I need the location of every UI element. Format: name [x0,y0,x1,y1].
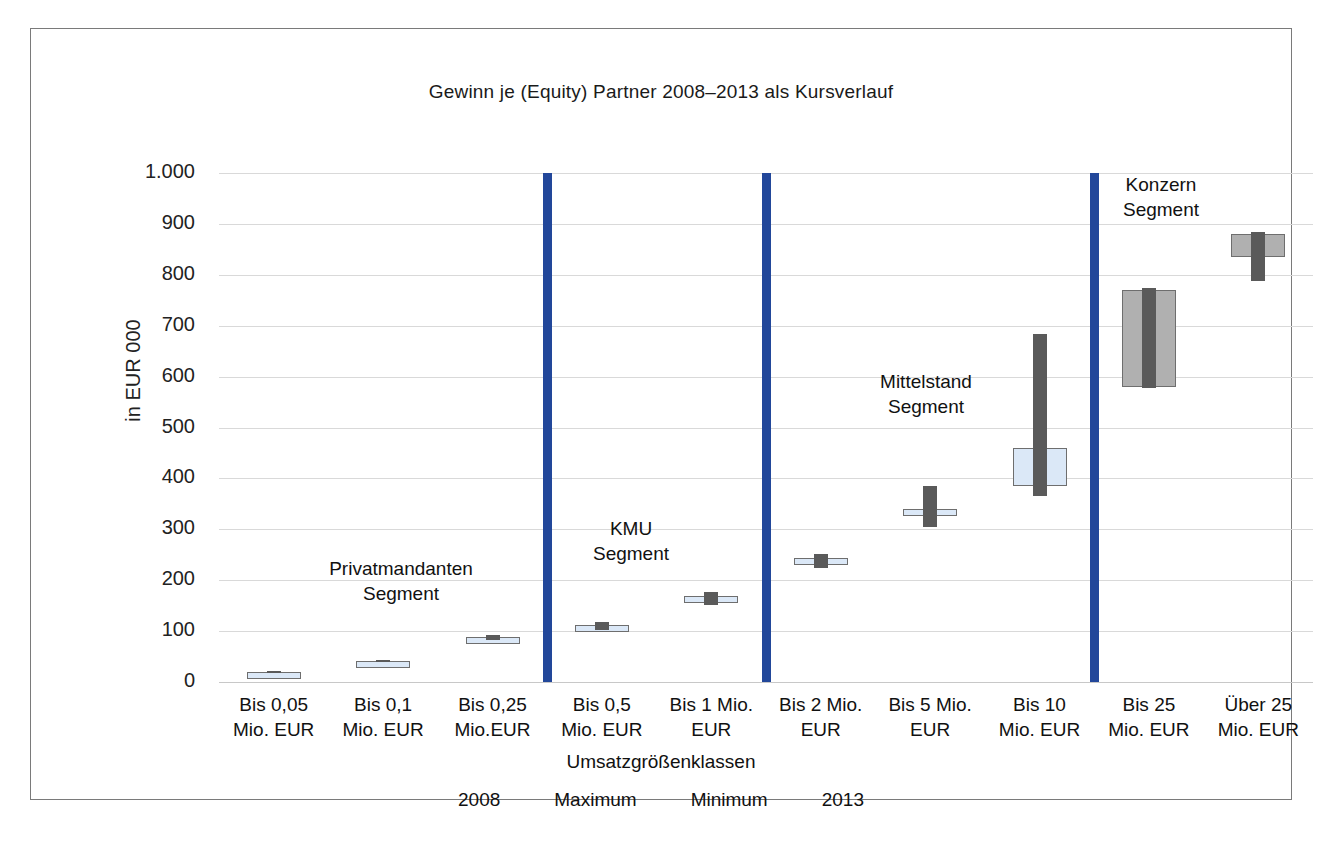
segment-annotation-line2: Segment [271,581,531,606]
y-tick-label: 400 [109,465,195,488]
x-tick-label: Bis 0,1Mio. EUR [328,692,437,742]
x-tick-line1: Bis 2 Mio. [766,692,875,717]
y-tick-label: 1.000 [109,160,195,183]
x-tick-line2: EUR [766,717,875,742]
y-tick-label: 700 [109,313,195,336]
segment-annotation-line1: Konzern [1051,172,1271,197]
segment-annotation-line2: Segment [531,541,731,566]
candle-body [356,661,410,668]
x-tick-line2: Mio. EUR [547,717,656,742]
y-tick-label: 0 [109,669,195,692]
candle-wick-overlay [1142,288,1156,388]
y-tick-label: 300 [109,516,195,539]
y-tick-label: 800 [109,262,195,285]
x-tick-line2: Mio. EUR [328,717,437,742]
candle-wick-overlay [1251,232,1265,281]
x-tick-line1: Bis 0,5 [547,692,656,717]
gridline [219,682,1313,683]
chart-title: Gewinn je (Equity) Partner 2008–2013 als… [31,81,1291,103]
x-tick-line1: Bis 0,1 [328,692,437,717]
x-tick-label: Über 25Mio. EUR [1204,692,1313,742]
chart-frame: Gewinn je (Equity) Partner 2008–2013 als… [30,28,1292,800]
x-tick-label: Bis 2 Mio.EUR [766,692,875,742]
x-tick-line2: Mio. EUR [1094,717,1203,742]
y-tick-label: 600 [109,364,195,387]
x-tick-label: Bis 0,5Mio. EUR [547,692,656,742]
segment-annotation: KMUSegment [531,516,731,566]
x-axis-title: Umsatzgrößenklassen [31,751,1291,773]
x-tick-label: Bis 0,25Mio.EUR [438,692,547,742]
x-tick-line2: Mio.EUR [438,717,547,742]
candle-wick-overlay [704,592,718,604]
legend-item: Maximum [554,789,636,811]
segment-divider [1090,173,1099,682]
x-tick-line1: Bis 10 [985,692,1094,717]
candle-wick-overlay [814,554,828,568]
x-tick-line1: Bis 0,05 [219,692,328,717]
x-tick-label: Bis 1 Mio.EUR [657,692,766,742]
segment-annotation: PrivatmandantenSegment [271,556,531,606]
candle-wick-overlay [486,635,500,640]
x-tick-label: Bis 25Mio. EUR [1094,692,1203,742]
segment-annotation-line1: KMU [531,516,731,541]
segment-annotation-line2: Segment [1051,197,1271,222]
x-tick-label: Bis 5 Mio.EUR [875,692,984,742]
x-tick-line2: Mio. EUR [1204,717,1313,742]
segment-annotation-line2: Segment [821,394,1031,419]
candle-wick-overlay [376,660,390,662]
x-tick-line2: EUR [657,717,766,742]
segment-annotation: KonzernSegment [1051,172,1271,222]
candle-body [247,672,301,679]
x-tick-line1: Bis 25 [1094,692,1203,717]
x-tick-line2: Mio. EUR [219,717,328,742]
candle-wick-overlay [1033,334,1047,496]
segment-annotation-line1: Privatmandanten [271,556,531,581]
x-tick-line1: Bis 0,25 [438,692,547,717]
candle-wick-overlay [923,486,937,527]
x-tick-line2: Mio. EUR [985,717,1094,742]
x-tick-label: Bis 0,05Mio. EUR [219,692,328,742]
x-tick-label: Bis 10Mio. EUR [985,692,1094,742]
segment-divider [543,173,552,682]
segment-annotation: MittelstandSegment [821,369,1031,419]
x-tick-line1: Über 25 [1204,692,1313,717]
y-tick-label: 200 [109,567,195,590]
candle-wick-overlay [595,622,609,630]
candle-wick-overlay [267,671,281,673]
legend-item: 2008 [458,789,500,811]
x-tick-line1: Bis 5 Mio. [875,692,984,717]
x-tick-line1: Bis 1 Mio. [657,692,766,717]
legend-item: Minimum [691,789,768,811]
y-tick-label: 100 [109,618,195,641]
legend-item: 2013 [822,789,864,811]
chart-legend: 2008MaximumMinimum2013 [31,789,1291,811]
segment-divider [762,173,771,682]
y-tick-label: 500 [109,415,195,438]
segment-annotation-line1: Mittelstand [821,369,1031,394]
x-tick-line2: EUR [875,717,984,742]
y-tick-label: 900 [109,211,195,234]
